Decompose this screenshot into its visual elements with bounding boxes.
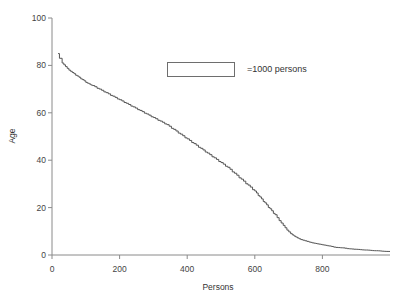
y-tick-label: 100: [20, 13, 46, 23]
y-tick-label: 20: [20, 203, 46, 213]
x-tick-label: 0: [32, 264, 72, 274]
x-tick-label: 600: [235, 264, 275, 274]
y-tick-label: 0: [20, 250, 46, 260]
axes: [48, 18, 390, 259]
y-axis-title: Age: [7, 116, 17, 156]
age-persons-chart: 020406080100 0200400600800 Age Persons =…: [0, 0, 398, 306]
legend-label: =1000 persons: [247, 64, 307, 74]
y-tick-label: 80: [20, 60, 46, 70]
x-axis-ticks: [52, 255, 322, 259]
survival-step-line: [58, 54, 390, 252]
y-axis-ticks: [48, 18, 52, 255]
legend-swatch-rectangle: [167, 62, 235, 77]
x-axis-title: Persons: [188, 282, 248, 292]
data-series: [58, 54, 390, 252]
plot-canvas: [0, 0, 398, 306]
y-tick-label: 40: [20, 155, 46, 165]
x-tick-label: 400: [167, 264, 207, 274]
x-tick-label: 200: [100, 264, 140, 274]
x-tick-label: 800: [302, 264, 342, 274]
y-tick-label: 60: [20, 108, 46, 118]
